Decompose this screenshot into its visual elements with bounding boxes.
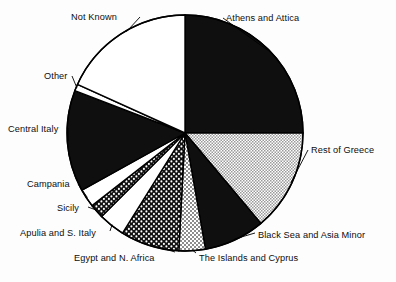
slice-label-not-known: Not Known <box>71 12 117 23</box>
slice-label-sicily: Sicily <box>57 203 79 214</box>
slice-label-rest-of-greece: Rest of Greece <box>311 145 374 156</box>
slice-label-apulia-and-s-italy: Apulia and S. Italy <box>20 228 96 239</box>
slice-label-athens-and-attica: Athens and Attica <box>226 13 299 24</box>
slice-label-central-italy: Central Italy <box>8 124 58 135</box>
slice-label-campania: Campania <box>27 179 70 190</box>
slice-label-the-islands-and-cyprus: The Islands and Cyprus <box>199 253 298 264</box>
leader-other <box>72 76 77 88</box>
slice-label-black-sea-and-asia-minor: Black Sea and Asia Minor <box>258 230 365 241</box>
pie-chart-figure: Athens and Attica Rest of Greece Black S… <box>0 0 396 282</box>
slice-label-other: Other <box>44 71 67 82</box>
slice-label-egypt-and-n-africa: Egypt and N. Africa <box>74 253 155 264</box>
